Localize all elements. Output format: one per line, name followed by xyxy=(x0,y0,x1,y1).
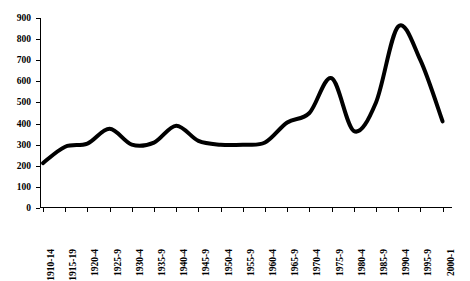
x-axis-tick-label: 2000-1 xyxy=(446,249,456,276)
x-axis-tick-label: 1985-9 xyxy=(379,249,389,276)
x-axis-tick-label: 1920-4 xyxy=(90,249,100,276)
x-axis-tick-label: 1930-4 xyxy=(135,249,145,276)
x-axis-tick-label: 1915-19 xyxy=(68,249,78,281)
x-axis-tick-label: 1925-9 xyxy=(113,249,123,276)
x-axis-tick-label: 1970-4 xyxy=(312,249,322,276)
x-axis-tick-label: 1965-9 xyxy=(290,249,300,276)
x-axis-tick-label: 1950-4 xyxy=(224,249,234,276)
x-axis-tick-label: 1995-9 xyxy=(423,249,433,276)
x-axis-tick-label: 1955-9 xyxy=(246,249,256,276)
x-axis-tick-label: 1945-9 xyxy=(201,249,211,276)
x-axis-tick-label: 1975-9 xyxy=(335,249,345,276)
x-axis-tick-label: 1940-4 xyxy=(179,249,189,276)
x-axis-tick-label: 1960-4 xyxy=(268,249,278,276)
x-axis-tick-label: 1980-4 xyxy=(357,249,367,276)
series-1-line xyxy=(43,25,443,163)
x-axis-tick-label: 1990-4 xyxy=(401,249,411,276)
x-axis-tick-label: 1910-14 xyxy=(46,249,56,281)
x-axis-tick-label: 1935-9 xyxy=(157,249,167,276)
